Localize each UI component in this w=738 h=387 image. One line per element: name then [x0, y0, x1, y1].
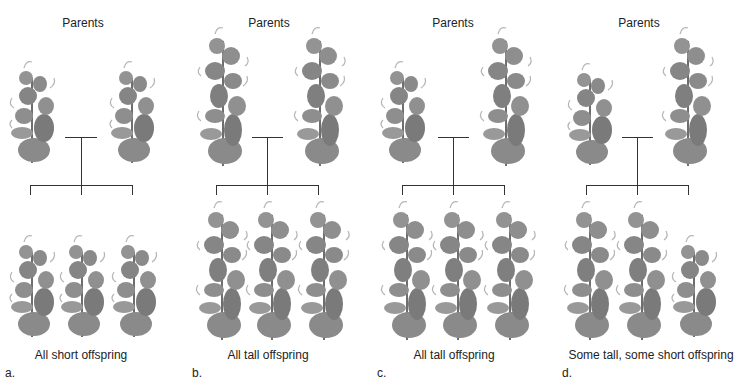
offspring-bracket	[318, 185, 319, 195]
panel-letter: a.	[5, 366, 15, 380]
offspring-plant-short	[54, 232, 114, 342]
parent-plant-short	[104, 58, 164, 168]
offspring-bracket	[586, 185, 587, 195]
offspring-bracket	[402, 185, 403, 195]
parent-plant-tall	[476, 26, 538, 171]
offspring-bracket	[30, 185, 31, 195]
offspring-caption: All tall offspring	[359, 348, 549, 362]
cross-line	[637, 137, 638, 185]
offspring-plant-short	[666, 232, 726, 342]
offspring-caption: Some tall, some short offspring	[556, 348, 738, 362]
parent-plant-tall	[658, 26, 720, 171]
offspring-bracket	[688, 185, 689, 195]
offspring-caption: All tall offspring	[173, 348, 363, 362]
offspring-bracket	[453, 185, 454, 195]
parent-plant-tall	[193, 26, 255, 171]
offspring-plant-tall	[294, 200, 356, 345]
cross-line	[267, 137, 268, 185]
offspring-bracket	[637, 185, 638, 195]
panel-letter: b.	[192, 366, 202, 380]
cross-line	[81, 137, 82, 185]
parent-plant-short	[4, 58, 64, 168]
panel-letter: c.	[377, 366, 386, 380]
offspring-bracket	[267, 185, 268, 195]
cross-line	[453, 137, 454, 185]
offspring-plant-tall	[612, 200, 674, 345]
offspring-bracket	[216, 185, 217, 195]
offspring-bracket	[81, 185, 82, 195]
offspring-bracket	[132, 185, 133, 195]
parents-label: Parents	[33, 16, 133, 30]
panel-letter: d.	[562, 366, 572, 380]
offspring-caption: All short offspring	[0, 348, 176, 362]
parent-plant-short	[375, 58, 435, 168]
offspring-plant-tall	[480, 200, 542, 345]
parent-plant-short	[562, 60, 622, 170]
offspring-bracket	[504, 185, 505, 195]
parent-plant-tall	[290, 26, 352, 171]
offspring-plant-short	[106, 232, 166, 342]
